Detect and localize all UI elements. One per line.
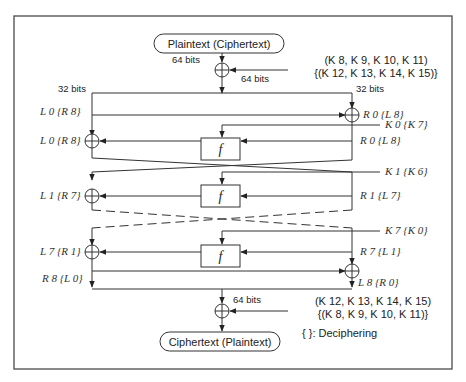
round8-f-box: f <box>201 245 240 267</box>
top-xor-icon <box>215 63 229 77</box>
top-keys-line2: {(K 12, K 13, K 14, K 15)} <box>314 67 438 79</box>
r1-label: R 1 {L 7} <box>359 189 401 201</box>
bottom-bits-label: 64 bits <box>233 294 261 305</box>
input-label: Plaintext (Ciphertext) <box>168 38 271 50</box>
ciphertext-output-node: Ciphertext (Plaintext) <box>160 332 280 351</box>
l7-label: L 7 {R 1} <box>39 245 81 257</box>
l0-xor-icon <box>85 134 99 148</box>
right-split-bits: 32 bits <box>356 83 384 94</box>
deciphering-legend: { }: Deciphering <box>302 327 377 339</box>
round2-f-box: f <box>201 185 240 207</box>
k7-label: K 7 {K 0} <box>384 224 428 236</box>
r7-label: R 7 {L 1} <box>359 245 401 257</box>
top-in-bits-label: 64 bits <box>172 54 200 65</box>
top-out-bits-label: 64 bits <box>241 73 269 84</box>
l1-label: L 1 {R 7} <box>39 189 81 201</box>
top-keys-line1: (K 8, K 9, K 10, K 11) <box>324 54 427 66</box>
l8-label: L 8 {R 0} <box>357 276 399 288</box>
r0-f-label: R 0 {L 8} <box>359 134 401 146</box>
k0-label: K 0 {K 7} <box>384 118 428 130</box>
bottom-xor-icon <box>215 304 229 318</box>
l7-xor-icon <box>85 245 99 259</box>
l8-xor-icon <box>345 264 359 278</box>
feal-diagram: Plaintext (Ciphertext) 64 bits (K 8, K 9… <box>0 0 466 382</box>
left-split-bits: 32 bits <box>58 83 86 94</box>
output-label: Ciphertext (Plaintext) <box>169 336 272 348</box>
l0-split-label: L 0 {R 8} <box>39 105 81 117</box>
round1-f-box: f <box>201 138 240 160</box>
r0-xor-icon <box>345 108 359 122</box>
bottom-keys-line2: {(K 8, K 9, K 10, K 11)} <box>318 308 429 320</box>
l1-xor-icon <box>85 189 99 203</box>
k1-label: K 1 {K 6} <box>384 165 428 177</box>
r8-label: R 8 {L 0} <box>41 272 83 284</box>
plaintext-input-node: Plaintext (Ciphertext) <box>154 34 284 53</box>
l0-xor-label: L 0 {R 8} <box>39 134 81 146</box>
bottom-keys-line1: (K 12, K 13, K 14, K 15) <box>315 295 431 307</box>
